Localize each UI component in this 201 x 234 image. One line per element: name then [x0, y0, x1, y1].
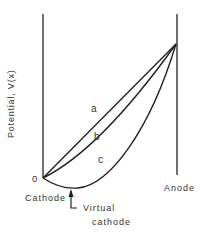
curve-a — [43, 44, 176, 178]
origin-label: 0 — [32, 173, 37, 184]
virtual-cathode-label-line1: Virtual — [83, 203, 115, 213]
virtual-cathode-arrow — [69, 189, 78, 208]
virtual-cathode-label-line2: cathode — [92, 217, 131, 227]
y-axis-label: Potential, V(x) — [6, 69, 16, 138]
curve-a-label: a — [91, 103, 97, 114]
curve-c-label: c — [98, 154, 103, 165]
curve-b-label: b — [94, 131, 100, 142]
potential-diagram: a b c Potential, V(x) 0 Cathode Anode Vi… — [0, 0, 201, 234]
cathode-label: Cathode — [25, 193, 66, 203]
anode-label: Anode — [164, 183, 195, 193]
